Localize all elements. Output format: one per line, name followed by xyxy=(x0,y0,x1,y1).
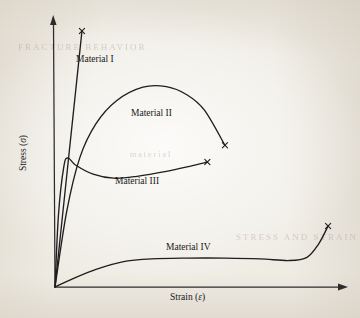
x-axis-label: Strain (ε) xyxy=(170,292,205,302)
label-material-4: Material IV xyxy=(166,242,211,252)
x-axis xyxy=(55,284,348,291)
fracture-marker-group xyxy=(79,28,330,228)
chart-canvas xyxy=(0,0,360,318)
y-axis-label: Stress (σ) xyxy=(18,113,28,193)
x-axis-label-text: Strain xyxy=(170,292,193,302)
y-axis-label-text: Stress xyxy=(18,148,28,171)
label-material-3: Material III xyxy=(115,176,159,186)
label-material-1: Material I xyxy=(76,54,114,64)
curve-material-4 xyxy=(55,226,328,287)
curve-material-1 xyxy=(55,31,82,287)
y-axis xyxy=(50,15,57,287)
y-axis-label-symbol: σ xyxy=(18,138,28,143)
x-axis-label-symbol: ε xyxy=(198,292,202,302)
stress-strain-figure: FRACTURE BEHAVIOR STRESS AND STRAIN mate… xyxy=(0,0,360,318)
label-material-2: Material II xyxy=(131,108,172,118)
